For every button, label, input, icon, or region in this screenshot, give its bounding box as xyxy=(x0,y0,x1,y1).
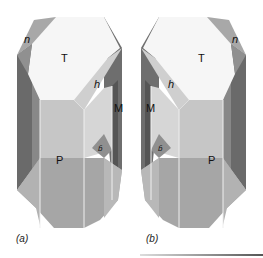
crystal-b xyxy=(141,17,246,228)
caption-b: (b) xyxy=(146,233,158,244)
crystal-diagram: n T h M P b̄ n T xyxy=(0,0,263,258)
label-T-b: T xyxy=(198,52,205,64)
label-n-b: n xyxy=(232,33,238,45)
label-M-a: M xyxy=(114,102,123,114)
label-b-b: b̄ xyxy=(158,144,163,153)
divider-line xyxy=(140,254,263,256)
face-prism-center xyxy=(179,100,223,158)
crystal-a: n T h M P b̄ xyxy=(17,17,123,228)
label-h-a: h xyxy=(94,78,100,90)
label-P-a: P xyxy=(56,154,63,166)
label-h-b: h xyxy=(168,78,174,90)
caption-a: (a) xyxy=(16,233,28,244)
label-P-b: P xyxy=(208,154,215,166)
label-M-b: M xyxy=(146,102,155,114)
label-T-a: T xyxy=(61,52,68,64)
crystal-figure: n T h M P b̄ n T xyxy=(0,0,263,258)
face-prism-center xyxy=(40,100,84,158)
label-b-a: b̄ xyxy=(98,144,103,153)
label-n-a: n xyxy=(24,33,30,45)
